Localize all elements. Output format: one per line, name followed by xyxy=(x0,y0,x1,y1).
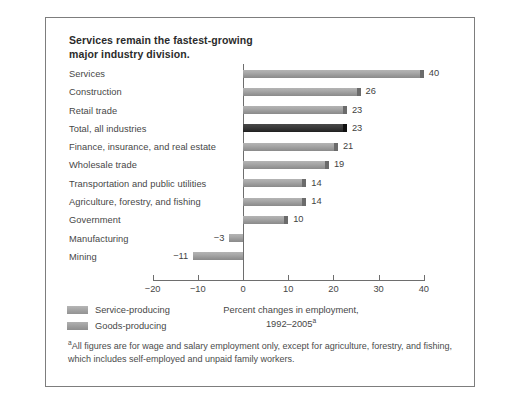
bar-value-label: 14 xyxy=(311,196,321,206)
bar-value-label: −11 xyxy=(173,251,188,261)
bar-value-label: −3 xyxy=(214,233,225,243)
x-axis-tick xyxy=(243,275,244,281)
x-axis-tick-label: −10 xyxy=(190,284,206,294)
legend-label-service-producing: Service-producing xyxy=(95,305,170,315)
bar xyxy=(193,252,243,260)
bar-category-label: Manufacturing xyxy=(69,234,129,244)
bar-category-label: Mining xyxy=(69,252,97,262)
chart-plot-area: Services40Construction26Retail trade23To… xyxy=(46,66,476,271)
bar-value-label: 40 xyxy=(429,68,439,78)
bar xyxy=(243,88,361,96)
x-axis-tick xyxy=(153,275,154,281)
x-axis-tick xyxy=(198,275,199,281)
x-axis-tick-label: 30 xyxy=(373,284,383,294)
chart-title-line-2: major industry division. xyxy=(69,48,190,60)
chart-title: Services remain the fastest-growing majo… xyxy=(69,34,369,61)
bar-value-label: 21 xyxy=(343,141,353,151)
chart-bar-row: Mining−11 xyxy=(46,249,476,267)
chart-footnote: aAll figures are for wage and salary emp… xyxy=(68,340,458,365)
bar xyxy=(243,143,338,151)
bar xyxy=(243,161,329,169)
bar-end-cap xyxy=(302,198,306,206)
chart-bar-row: Finance, insurance, and real estate21 xyxy=(46,139,476,157)
bar xyxy=(243,179,306,187)
bar-category-label: Wholesale trade xyxy=(69,160,137,170)
bar xyxy=(229,234,243,242)
x-axis-tick xyxy=(379,275,380,281)
x-axis-caption-line-2: 1992–2005 xyxy=(266,319,313,329)
bar-category-label: Construction xyxy=(69,87,122,97)
bar-value-label: 23 xyxy=(352,105,362,115)
bar-category-label: Agriculture, forestry, and fishing xyxy=(69,197,201,207)
bar-end-cap xyxy=(343,124,347,132)
bar-end-cap xyxy=(325,161,329,169)
bar-category-label: Retail trade xyxy=(69,106,117,116)
bar-category-label: Finance, insurance, and real estate xyxy=(69,142,216,152)
chart-bar-row: Government10 xyxy=(46,212,476,230)
bar-value-label: 26 xyxy=(366,86,376,96)
bar-category-label: Government xyxy=(69,215,121,225)
legend-label-goods-producing: Goods-producing xyxy=(95,321,166,331)
x-axis-tick xyxy=(288,275,289,281)
x-axis-caption: Percent changes in employment, 1992–2005… xyxy=(191,303,391,331)
bar-end-cap xyxy=(284,216,288,224)
bar xyxy=(243,106,347,114)
chart-bar-row: Wholesale trade19 xyxy=(46,157,476,175)
legend-swatch-icon-goods-producing xyxy=(67,322,88,330)
bar-category-label: Services xyxy=(69,69,105,79)
legend-swatch-icon-service-producing xyxy=(67,306,88,314)
x-axis-tick-label: −20 xyxy=(145,284,161,294)
x-axis-tick-label: 0 xyxy=(240,284,245,294)
x-axis-tick-label: 10 xyxy=(283,284,293,294)
bar xyxy=(243,198,306,206)
bar xyxy=(243,70,424,78)
x-axis-tick xyxy=(424,275,425,281)
bar xyxy=(243,124,347,132)
chart-bar-row: Construction26 xyxy=(46,84,476,102)
chart-bar-row: Total, all industries23 xyxy=(46,121,476,139)
bar-end-cap xyxy=(357,88,361,96)
bar-value-label: 23 xyxy=(352,123,362,133)
chart-bar-row: Agriculture, forestry, and fishing14 xyxy=(46,194,476,212)
chart-title-line-1: Services remain the fastest-growing xyxy=(69,34,253,46)
chart-bar-row: Transportation and public utilities14 xyxy=(46,176,476,194)
chart-bar-row: Services40 xyxy=(46,66,476,84)
x-axis-caption-footnote-marker: a xyxy=(312,317,316,324)
bar-end-cap xyxy=(343,106,347,114)
x-axis-tick-label: 20 xyxy=(328,284,338,294)
x-axis: −20−10010203040 xyxy=(46,271,476,301)
chart-figure-frame: Services remain the fastest-growing majo… xyxy=(45,17,475,387)
footnote-text: All figures are for wage and salary empl… xyxy=(68,341,452,364)
bar-end-cap xyxy=(420,70,424,78)
bar-value-label: 19 xyxy=(334,159,344,169)
bar xyxy=(243,216,288,224)
bar-value-label: 14 xyxy=(311,178,321,188)
bar-category-label: Transportation and public utilities xyxy=(69,179,206,189)
x-axis-caption-line-1: Percent changes in employment, xyxy=(223,305,358,315)
chart-bar-row: Retail trade23 xyxy=(46,103,476,121)
bar-value-label: 10 xyxy=(293,214,303,224)
bar-end-cap xyxy=(334,143,338,151)
bar-category-label: Total, all industries xyxy=(69,124,147,134)
x-axis-tick-label: 40 xyxy=(419,284,429,294)
chart-bar-row: Manufacturing−3 xyxy=(46,231,476,249)
x-axis-tick xyxy=(333,275,334,281)
bar-end-cap xyxy=(302,179,306,187)
